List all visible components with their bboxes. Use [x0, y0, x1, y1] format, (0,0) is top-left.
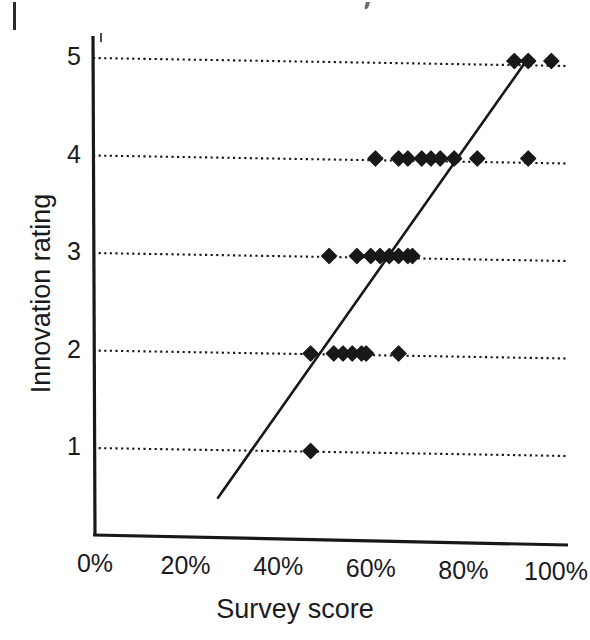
trendline-segment — [218, 58, 528, 498]
data-point-marker — [368, 151, 383, 166]
trendline — [218, 58, 528, 498]
gridline-rating-1 — [93, 448, 568, 456]
data-point-marker — [433, 151, 448, 166]
gridline-rating-5 — [93, 58, 568, 66]
data-point-marker — [391, 346, 406, 361]
scatter-plot-figure: 12345 0%20%40%60%80%100% Innovation rati… — [0, 0, 590, 640]
data-point-marker — [470, 151, 485, 166]
data-point-marker — [521, 151, 536, 166]
x-tick-label-40: 40% — [232, 554, 324, 579]
y-tick-label-4: 4 — [47, 142, 81, 167]
y-tick-label-1: 1 — [47, 434, 81, 459]
data-points-group — [303, 54, 559, 459]
data-point-marker — [303, 444, 318, 459]
data-point-marker — [544, 54, 559, 69]
x-tick-label-100: 100% — [510, 559, 590, 584]
gridline-rating-4 — [93, 156, 568, 164]
y-axis-line — [93, 36, 95, 535]
data-point-marker — [447, 151, 462, 166]
x-axis-title: Survey score — [0, 596, 590, 623]
data-point-marker — [349, 249, 364, 264]
plot-canvas — [0, 0, 590, 640]
x-tick-label-20: 20% — [140, 553, 232, 578]
data-point-marker — [400, 151, 415, 166]
data-point-marker — [507, 54, 522, 69]
axis-lines-group — [93, 36, 568, 545]
data-point-marker — [322, 249, 337, 264]
x-tick-label-60: 60% — [325, 556, 417, 581]
x-tick-label-0: 0% — [49, 551, 141, 576]
y-tick-label-5: 5 — [47, 44, 81, 69]
x-axis-line — [93, 535, 568, 545]
y-axis-title: Innovation rating — [28, 169, 55, 419]
x-tick-label-80: 80% — [417, 558, 509, 583]
